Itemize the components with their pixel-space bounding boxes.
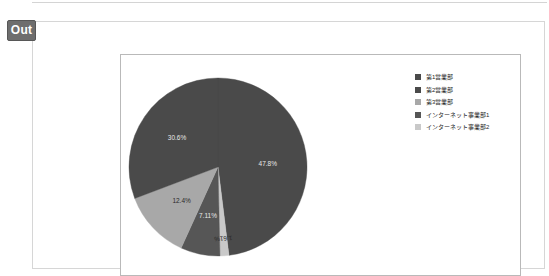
legend-swatch-icon <box>415 99 421 105</box>
legend-item[interactable]: 第2営業部 <box>415 85 519 95</box>
pie-slice[interactable] <box>218 78 307 255</box>
top-divider <box>32 2 547 3</box>
legend-item-label: 第2営業部 <box>426 85 453 95</box>
legend-swatch-icon <box>415 74 421 80</box>
pie-slice-label: 1.61% <box>214 235 233 243</box>
chart-container: 47.8%1.61%7.11%12.4%30.6% 第1営業部第2営業部第3営業… <box>120 54 521 276</box>
legend-item-label: 第1営業部 <box>426 72 453 82</box>
chart-legend: 第1営業部第2営業部第3営業部インターネット事業部1インターネット事業部2 <box>415 72 519 135</box>
page-frame: Out 47.8%1.61%7.11%12.4%30.6% 第1営業部第2営業部… <box>0 0 549 276</box>
pie-slice-label: 12.4% <box>172 197 191 204</box>
output-cell: 47.8%1.61%7.11%12.4%30.6% 第1営業部第2営業部第3営業… <box>32 21 545 269</box>
legend-item[interactable]: インターネット事業部1 <box>415 110 519 120</box>
legend-item-label: インターネット事業部2 <box>426 122 489 132</box>
legend-item[interactable]: 第1営業部 <box>415 72 519 82</box>
pie-slices-group <box>129 78 307 256</box>
legend-item-label: 第3営業部 <box>426 97 453 107</box>
out-badge: Out <box>7 20 36 41</box>
legend-swatch-icon <box>415 124 421 130</box>
pie-slice-label: 7.11% <box>199 212 217 219</box>
legend-item-label: インターネット事業部1 <box>426 110 489 120</box>
legend-swatch-icon <box>415 87 421 93</box>
pie-slice-label: 30.6% <box>168 134 187 141</box>
legend-item[interactable]: 第3営業部 <box>415 97 519 107</box>
pie-slice-label: 47.8% <box>259 160 278 167</box>
legend-swatch-icon <box>415 112 421 118</box>
legend-item[interactable]: インターネット事業部2 <box>415 122 519 132</box>
